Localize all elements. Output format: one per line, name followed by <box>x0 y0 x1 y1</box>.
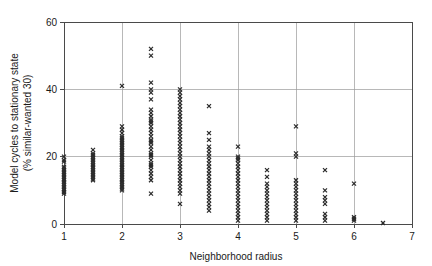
x-axis-title: Neighborhood radius <box>190 251 283 262</box>
data-point-marker <box>265 175 269 179</box>
data-point-marker <box>323 202 327 206</box>
chart-canvas: 02040601234567 Neighborhood radius Model… <box>0 0 432 266</box>
data-point-marker <box>149 47 153 51</box>
x-tick-label: 5 <box>293 231 299 242</box>
data-point-marker <box>149 192 153 196</box>
y-tick-label: 60 <box>46 17 58 28</box>
data-point-marker <box>149 91 153 95</box>
data-point-marker <box>323 219 327 223</box>
data-point-marker <box>207 138 211 142</box>
y-tick-label: 40 <box>46 84 58 95</box>
tick-labels: 02040601234567 <box>46 17 415 243</box>
data-point-marker <box>265 168 269 172</box>
y-axis-title-line1: Model cycles to stationary state <box>9 53 20 193</box>
data-point-marker <box>149 81 153 85</box>
y-tick-label: 20 <box>46 151 58 162</box>
x-tick-label: 1 <box>61 231 67 242</box>
data-point-marker <box>207 131 211 135</box>
x-tick-label: 7 <box>409 231 415 242</box>
data-point-marker <box>207 104 211 108</box>
scatter-plot-figure: 02040601234567 Neighborhood radius Model… <box>0 0 432 266</box>
y-tick-label: 0 <box>51 219 57 230</box>
x-tick-label: 3 <box>177 231 183 242</box>
data-point-marker <box>265 219 269 223</box>
y-axis-title-line2: (% similar-wanted 30) <box>22 75 33 172</box>
x-tick-label: 6 <box>351 231 357 242</box>
data-point-marker <box>323 168 327 172</box>
tick-marks <box>60 22 412 228</box>
x-tick-label: 2 <box>119 231 125 242</box>
data-point-marker <box>149 97 153 101</box>
x-tick-label: 4 <box>235 231 241 242</box>
data-point-marker <box>149 54 153 58</box>
data-point-marker <box>323 188 327 192</box>
data-point-marker <box>149 178 153 182</box>
data-point-marker <box>207 209 211 213</box>
data-points <box>62 47 385 225</box>
